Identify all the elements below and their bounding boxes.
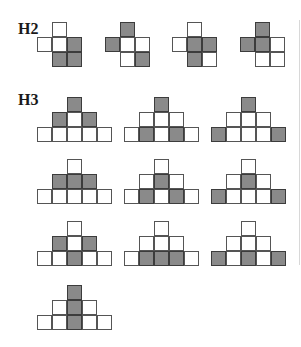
empty-cell [67,127,82,142]
empty-cell [184,251,199,266]
empty-cell [67,159,82,174]
filled-cell [154,251,169,266]
empty-cell [154,189,169,204]
filled-cell [82,112,97,127]
filled-cell [67,251,82,266]
empty-cell [187,22,202,37]
filled-cell [154,174,169,189]
filled-cell [52,236,67,251]
empty-cell [241,127,256,142]
filled-cell [255,22,270,37]
filled-cell [120,22,135,37]
empty-cell [124,251,139,266]
empty-cell [67,221,82,236]
empty-cell [270,37,285,52]
empty-cell [256,112,271,127]
filled-cell [67,315,82,330]
empty-cell [120,52,135,67]
filled-cell [139,127,154,142]
filled-cell [240,37,255,52]
filled-cell [105,37,120,52]
filled-cell [241,97,256,112]
empty-cell [52,22,67,37]
filled-cell [187,52,202,67]
label-h3: H3 [18,92,38,108]
filled-cell [67,52,82,67]
empty-cell [172,37,187,52]
empty-cell [202,52,217,67]
empty-cell [97,189,112,204]
empty-cell [37,315,52,330]
empty-cell [97,251,112,266]
empty-cell [52,189,67,204]
filled-cell [67,97,82,112]
empty-cell [120,37,135,52]
filled-cell [67,174,82,189]
right-margin-rule [299,20,300,265]
filled-cell [211,127,226,142]
filled-cell [139,189,154,204]
empty-cell [67,236,82,251]
label-h2: H2 [18,21,38,37]
empty-cell [67,189,82,204]
filled-cell [211,251,226,266]
empty-cell [37,189,52,204]
empty-cell [154,159,169,174]
empty-cell [184,127,199,142]
filled-cell [271,127,286,142]
empty-cell [82,127,97,142]
empty-cell [82,315,97,330]
empty-cell [124,189,139,204]
empty-cell [52,37,67,52]
filled-cell [169,189,184,204]
filled-cell [67,285,82,300]
empty-cell [270,52,285,67]
filled-cell [211,189,226,204]
empty-cell [154,112,169,127]
empty-cell [97,127,112,142]
empty-cell [241,189,256,204]
empty-cell [82,300,97,315]
empty-cell [139,112,154,127]
empty-cell [255,52,270,67]
empty-cell [226,112,241,127]
empty-cell [97,315,112,330]
empty-cell [135,37,150,52]
empty-cell [154,127,169,142]
empty-cell [139,174,154,189]
empty-cell [52,127,67,142]
empty-cell [256,127,271,142]
empty-cell [226,236,241,251]
filled-cell [52,112,67,127]
empty-cell [67,112,82,127]
empty-cell [226,174,241,189]
filled-cell [271,189,286,204]
filled-cell [271,251,286,266]
empty-cell [169,236,184,251]
empty-cell [226,127,241,142]
empty-cell [184,189,199,204]
empty-cell [256,174,271,189]
filled-cell [135,52,150,67]
empty-cell [226,251,241,266]
filled-cell [154,97,169,112]
empty-cell [52,315,67,330]
empty-cell [37,37,52,52]
filled-cell [202,37,217,52]
empty-cell [37,127,52,142]
filled-cell [241,174,256,189]
empty-cell [169,174,184,189]
empty-cell [169,112,184,127]
empty-cell [241,236,256,251]
filled-cell [82,236,97,251]
empty-cell [154,236,169,251]
empty-cell [52,251,67,266]
empty-cell [256,236,271,251]
empty-cell [154,221,169,236]
empty-cell [256,251,271,266]
filled-cell [139,251,154,266]
empty-cell [37,251,52,266]
empty-cell [139,236,154,251]
filled-cell [169,251,184,266]
filled-cell [187,37,202,52]
